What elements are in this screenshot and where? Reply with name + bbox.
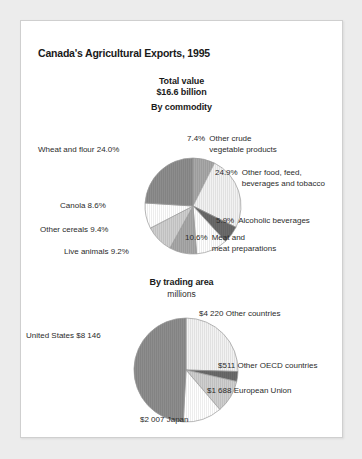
total-value-amount: $16.6 billion bbox=[21, 87, 342, 97]
commodity-label-other-crude-vegetable-products: 7.4% Other crude vegetable products bbox=[187, 134, 277, 155]
chart-card: Canada's Agricultural Exports, 1995 Tota… bbox=[20, 20, 343, 438]
commodity-label-other-food-feed-beverages-tobacco: 24.9% Other food, feed, beverages and to… bbox=[215, 168, 325, 189]
commodity-label-wheat-and-flour: Wheat and flour 24.0% bbox=[38, 145, 119, 156]
commodity-name-meat-and-meat-preparations: Meat and meat preparations bbox=[212, 233, 276, 254]
commodity-pct-other-crude-vegetable-products: 7.4% bbox=[187, 134, 205, 145]
pie-slice-wheat-and-flour bbox=[145, 158, 193, 206]
total-value-label: Total value bbox=[21, 76, 342, 86]
pie-slice-united-states bbox=[134, 318, 186, 422]
commodity-label-alcoholic-beverages: 5.9% Alcoholic beverages bbox=[216, 216, 310, 227]
by-commodity-title: By commodity bbox=[21, 102, 342, 112]
commodity-label-live-animals: Live animals 9.2% bbox=[64, 247, 129, 258]
trading-label-united-states: United States $8 146 bbox=[26, 331, 101, 342]
commodity-pct-other-food-feed-beverages-tobacco: 24.9% bbox=[215, 168, 238, 179]
page-title: Canada's Agricultural Exports, 1995 bbox=[38, 47, 210, 59]
by-trading-area-units: millions bbox=[21, 289, 342, 299]
commodity-label-canola: Canola 8.6% bbox=[60, 201, 106, 212]
commodity-label-other-cereals: Other cereals 9.4% bbox=[40, 225, 108, 236]
commodity-pct-meat-and-meat-preparations: 10.6% bbox=[185, 233, 208, 244]
commodity-label-meat-and-meat-preparations: 10.6% Meat and meat preparations bbox=[185, 233, 276, 254]
by-trading-area-title: By trading area bbox=[21, 277, 342, 287]
trading-label-other-countries: $4 220 Other countries bbox=[199, 309, 280, 320]
trading-label-european-union: $1 688 European Union bbox=[207, 386, 292, 397]
commodity-name-other-crude-vegetable-products: Other crude vegetable products bbox=[209, 134, 277, 155]
commodity-name-alcoholic-beverages: Alcoholic beverages bbox=[238, 216, 310, 227]
commodity-pct-alcoholic-beverages: 5.9% bbox=[216, 216, 234, 227]
trading-label-other-oecd-countries: $511 Other OECD countries bbox=[218, 361, 317, 372]
commodity-name-other-food-feed-beverages-tobacco: Other food, feed, beverages and tobacco bbox=[242, 168, 325, 189]
trading-label-japan: $2 007 Japan bbox=[140, 415, 189, 426]
